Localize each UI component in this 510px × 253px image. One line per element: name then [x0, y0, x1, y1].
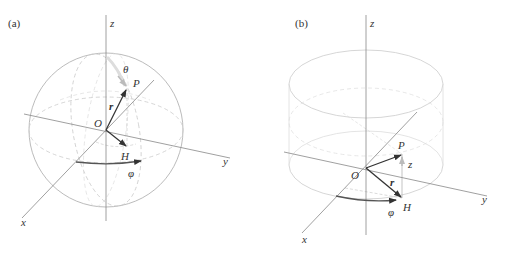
- phi-label: φ: [128, 167, 134, 179]
- r-label: r: [390, 176, 395, 188]
- x-axis: [22, 80, 154, 218]
- y-axis-label: y: [481, 193, 487, 205]
- y-axis-label: y: [222, 155, 228, 167]
- p-vector: [366, 155, 401, 168]
- panel-a-spherical: (a) z y x θ P r O H φ: [8, 15, 230, 228]
- z-axis-label: z: [369, 17, 375, 29]
- panel-a-label: (a): [8, 17, 21, 30]
- point-h-label: H: [120, 150, 130, 162]
- y-axis: [284, 152, 487, 196]
- h-vector: [106, 130, 126, 146]
- point-p-label: P: [397, 139, 405, 151]
- p-guide: [343, 113, 402, 154]
- point-h-label: H: [402, 201, 412, 213]
- z-axis-label: z: [109, 17, 115, 29]
- x-axis: [302, 112, 417, 233]
- theta-label: θ: [123, 63, 129, 75]
- r-label: r: [109, 100, 114, 112]
- panel-b-label: (b): [295, 17, 308, 30]
- projection-guide: [96, 142, 136, 147]
- origin-label: O: [94, 117, 102, 129]
- phi-label: φ: [388, 206, 394, 218]
- x-axis-label: x: [20, 216, 26, 228]
- x-axis-label: x: [301, 233, 307, 245]
- panel-b-cylindrical: (b) z y x z P O r H φ: [284, 15, 487, 245]
- z-height-label: z: [407, 158, 413, 170]
- coordinate-diagram: (a) z y x θ P r O H φ (: [0, 0, 510, 253]
- origin-label: O: [351, 169, 359, 181]
- point-p-label: P: [132, 77, 140, 89]
